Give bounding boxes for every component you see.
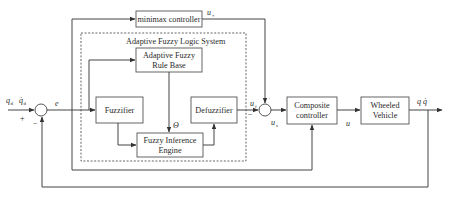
vehicle-label-2: Vehicle — [373, 111, 398, 120]
svg-text:q: q — [6, 96, 10, 105]
fuzzifier-to-inference-line — [118, 123, 136, 145]
svg-text:d: d — [11, 101, 14, 106]
inference-to-defuzzifier-line — [203, 124, 214, 145]
defuzzifier-label: Defuzzifier — [195, 106, 233, 115]
rule-base-label-1: Adaptive Fuzzy — [143, 51, 196, 60]
composite-controller-block[interactable]: Composite controller — [287, 97, 337, 124]
wheeled-vehicle-block[interactable]: Wheeled Vehicle — [361, 97, 409, 124]
svg-text:s: s — [276, 123, 278, 128]
inference-label-2: Engine — [158, 146, 182, 155]
composite-label-2: controller — [296, 111, 328, 120]
svg-text:u: u — [271, 118, 275, 127]
uf-label: u f — [250, 99, 257, 109]
vehicle-label-1: Wheeled — [370, 101, 399, 110]
summing-junction-error — [35, 104, 47, 116]
summing-junction-control — [259, 104, 271, 116]
svg-text:u: u — [250, 99, 254, 108]
plus-sign-junction1: + — [20, 114, 25, 123]
composite-label-1: Composite — [294, 101, 330, 110]
inference-engine-block[interactable]: Fuzzy Inference Engine — [137, 133, 203, 157]
svg-text:d: d — [24, 101, 27, 106]
svg-text:q̇: q̇ — [19, 96, 23, 105]
minimax-label: minimax controller — [138, 15, 201, 24]
junction2-plus-sign: + — [268, 96, 271, 101]
u-label: u — [346, 119, 350, 128]
defuzzifier-block[interactable]: Defuzzifier — [191, 97, 237, 123]
ustar-label: u * — [207, 8, 215, 19]
theta-label: Θ — [173, 121, 179, 130]
minus-sign-junction1: − — [33, 119, 38, 128]
svg-text:u: u — [207, 8, 211, 17]
minimax-controller-block[interactable]: minimax controller — [136, 11, 202, 27]
rule-base-label-2: Rule Base — [152, 61, 186, 70]
us-label: u s — [271, 118, 278, 128]
rule-base-block[interactable]: Adaptive Fuzzy Rule Base — [136, 48, 202, 72]
inference-label-1: Fuzzy Inference — [144, 136, 197, 145]
error-label: e — [55, 99, 59, 108]
fuzzifier-label: Fuzzifier — [105, 106, 135, 115]
svg-text:f: f — [255, 104, 257, 109]
svg-text:*: * — [212, 14, 215, 19]
fuzzifier-block[interactable]: Fuzzifier — [96, 97, 143, 123]
output-label: q q̇ — [417, 97, 427, 106]
block-diagram: Adaptive Fuzzy Logic System minimax cont… — [0, 0, 450, 199]
junction2-minus-sign: − — [248, 110, 253, 119]
afls-title: Adaptive Fuzzy Logic System — [126, 37, 226, 46]
input-label: q d q̇ d — [6, 96, 27, 106]
ustar-line — [202, 19, 265, 103]
